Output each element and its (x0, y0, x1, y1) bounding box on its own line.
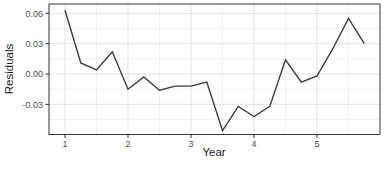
residuals-line-chart: 123450.060.030.00-0.03 (0, 0, 385, 171)
x-tick-label: 1 (62, 139, 67, 149)
x-axis-title: Year (202, 147, 225, 159)
panel-background (49, 4, 380, 135)
y-tick-label: 0.06 (25, 9, 43, 19)
x-tick-label: 3 (188, 139, 193, 149)
y-axis-title: Residuals (4, 44, 16, 95)
x-tick-label: 4 (251, 139, 256, 149)
y-tick-label: 0.00 (25, 69, 43, 79)
x-tick-label: 2 (125, 139, 130, 149)
y-tick-label: 0.03 (25, 39, 43, 49)
x-tick-label: 5 (314, 139, 319, 149)
y-tick-label: -0.03 (22, 100, 43, 110)
residuals-plot: 123450.060.030.00-0.03 Residuals Year (0, 0, 385, 171)
